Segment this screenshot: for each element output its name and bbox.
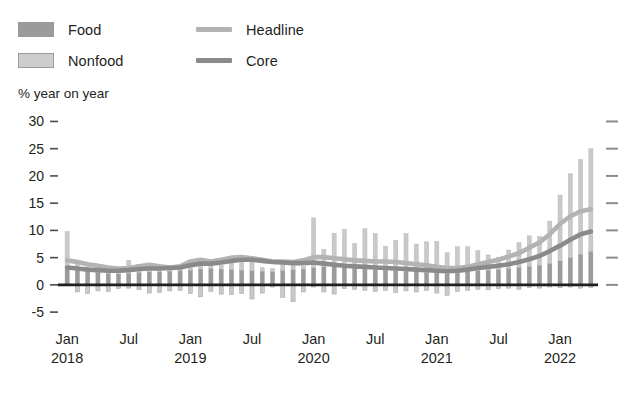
chart-svg: -5051015202530 <box>0 112 638 327</box>
series-line-headline <box>67 209 591 268</box>
y-tick-label: 10 <box>28 222 44 238</box>
x-tick-label: Jul <box>489 330 508 349</box>
legend-label-nonfood: Nonfood <box>68 53 124 69</box>
legend-column-lines: Headline Core <box>196 14 304 76</box>
y-tick-label: 0 <box>36 277 44 293</box>
x-tick-label: Jan2020 <box>297 330 329 368</box>
core-line-icon <box>196 58 232 63</box>
y-tick-label: 30 <box>28 113 44 129</box>
headline-line-icon <box>196 27 232 32</box>
x-axis-labels: Jan2018JulJan2019JulJan2020JulJan2021Jul… <box>0 330 638 390</box>
legend-item-core: Core <box>196 45 304 76</box>
x-tick-label: Jan2018 <box>51 330 83 368</box>
y-tick-label: 20 <box>28 168 44 184</box>
legend-item-nonfood: Nonfood <box>18 45 124 76</box>
food-swatch-icon <box>18 22 54 37</box>
x-tick-label: Jan2019 <box>174 330 206 368</box>
nonfood-swatch-icon <box>18 53 54 68</box>
x-tick-label: Jan2021 <box>421 330 453 368</box>
y-axis-title: % year on year <box>18 86 109 101</box>
y-tick-label: 15 <box>28 195 44 211</box>
x-tick-label: Jan2022 <box>544 330 576 368</box>
x-tick-label: Jul <box>243 330 262 349</box>
bars-negative <box>75 285 593 302</box>
inflation-chart: Food Nonfood Headline Core % year on yea… <box>0 0 638 400</box>
legend-label-food: Food <box>68 22 101 38</box>
legend-item-food: Food <box>18 14 124 45</box>
y-tick-label: -5 <box>32 304 45 320</box>
plot-area: -5051015202530 <box>0 112 638 327</box>
chart-legend: Food Nonfood Headline Core <box>18 14 348 76</box>
legend-label-core: Core <box>246 53 278 69</box>
y-tick-label: 25 <box>28 141 44 157</box>
x-tick-label: Jul <box>119 330 138 349</box>
y-tick-label: 5 <box>36 250 44 266</box>
legend-label-headline: Headline <box>246 22 304 38</box>
legend-item-headline: Headline <box>196 14 304 45</box>
legend-column-bars: Food Nonfood <box>18 14 124 76</box>
x-tick-label: Jul <box>366 330 385 349</box>
